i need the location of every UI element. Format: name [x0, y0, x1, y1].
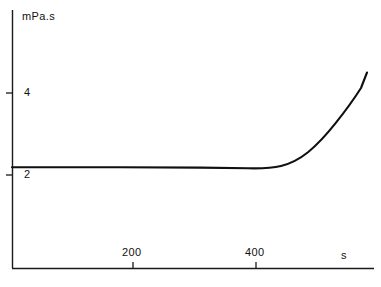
x-axis-title: s	[341, 249, 347, 261]
y-tick-label-2: 2	[24, 168, 31, 180]
y-tick-label-4: 4	[24, 86, 31, 98]
x-tick-label-400: 400	[245, 246, 265, 258]
viscosity-curve	[12, 73, 367, 169]
y-axis-title: mPa.s	[22, 10, 55, 22]
viscosity-time-chart: mPa.s s 4 2 200 400	[0, 0, 381, 287]
x-tick-label-200: 200	[122, 246, 142, 258]
chart-plot-area	[0, 0, 381, 287]
